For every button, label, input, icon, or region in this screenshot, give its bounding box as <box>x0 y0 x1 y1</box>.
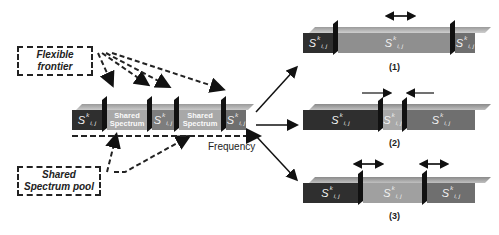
case1-segment-2: Ski, j <box>338 33 450 53</box>
shared-pool-line2: Spectrum pool <box>24 181 94 193</box>
case-2-label: (2) <box>389 138 400 148</box>
case1-segment-1: Ski, j <box>303 33 333 53</box>
segment-shared-spectrum-1: SharedSpectrum <box>107 110 147 130</box>
case2-segment-3: Ski, j <box>407 110 475 130</box>
case1-segment-3: Ski, j <box>455 33 475 53</box>
case2-segment-2: Ski, j <box>383 110 402 130</box>
case-3-label: (3) <box>389 211 400 221</box>
case3-segment-1: Ski, j <box>303 183 358 203</box>
segment-operator-2: Ski, j <box>152 110 174 130</box>
shared-spectrum-pool-label: SharedSpectrum pool <box>17 166 101 196</box>
flexible-frontier-label: Flexiblefrontier <box>17 46 93 76</box>
flexible-frontier-line1: Flexible <box>36 49 73 61</box>
segment-operator-3: Ski, j <box>226 110 246 130</box>
frequency-axis-label: Frequency <box>208 141 255 152</box>
shared-pool-line1: Shared <box>24 169 94 181</box>
segment-operator-1: Ski, j <box>72 110 102 130</box>
case3-segment-2: Ski, j <box>363 183 422 203</box>
case2-segment-1: Ski, j <box>303 110 378 130</box>
flexible-frontier-line2: frontier <box>36 61 73 73</box>
case-1-label: (1) <box>389 62 400 72</box>
segment-shared-spectrum-2: SharedSpectrum <box>179 110 221 130</box>
case3-segment-3: Ski, j <box>427 183 475 203</box>
